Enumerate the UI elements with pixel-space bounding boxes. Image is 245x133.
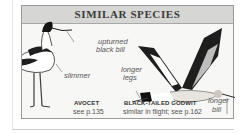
species-ref-avocet: see p.135 [73, 108, 104, 115]
label-slimmer: slimmer [64, 72, 90, 80]
page-bottom-rule [12, 129, 234, 130]
label-longer-legs-2: legs [123, 74, 137, 82]
similar-species-panel: SIMILAR SPECIES [21, 5, 234, 119]
label-longer-bill-2: bill [212, 106, 221, 114]
label-longer-bill-1: longer [208, 97, 229, 105]
species-name-godwit: BLACK-TAILED GODWIT [124, 100, 196, 106]
label-black-bill: black bill [96, 46, 125, 54]
species-name-avocet: AVOCET [74, 100, 99, 106]
species-ref-godwit: similar in flight; see p.162 [123, 108, 202, 115]
page-margin-rule [12, 0, 13, 129]
